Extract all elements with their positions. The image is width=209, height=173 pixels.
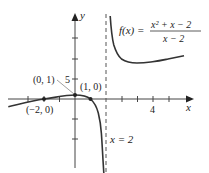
y-axis-label: y bbox=[79, 9, 85, 21]
function-graph: y x 5 4 (0, 1) (1, 0) (−2, 0) x = 2 f(x)… bbox=[0, 0, 209, 173]
point-neg2-0 bbox=[42, 97, 46, 101]
asymptote-label: x = 2 bbox=[109, 133, 134, 145]
x-axis-label: x bbox=[185, 101, 191, 113]
formula-denominator: x − 2 bbox=[162, 33, 184, 44]
formula-numerator: x² + x − 2 bbox=[150, 19, 191, 30]
point-label-1-0: (1, 0) bbox=[80, 81, 102, 93]
function-formula: f(x) = x² + x − 2 x − 2 bbox=[119, 19, 201, 44]
y-tick-label-5: 5 bbox=[65, 74, 70, 85]
point-label-neg2-0: (−2, 0) bbox=[26, 104, 53, 116]
function-label: f(x) = bbox=[119, 24, 144, 37]
point-1-0 bbox=[89, 97, 93, 101]
point-label-0-1: (0, 1) bbox=[33, 74, 55, 86]
y-axis-arrow-icon bbox=[72, 13, 79, 21]
curve-left-branch bbox=[8, 95, 104, 173]
x-tick-label-4: 4 bbox=[150, 104, 155, 115]
